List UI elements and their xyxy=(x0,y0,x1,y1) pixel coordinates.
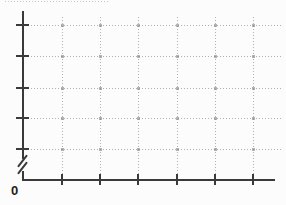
gridline-vertical xyxy=(253,17,254,179)
gridline-vertical xyxy=(138,17,139,179)
gridline-intersection xyxy=(252,24,255,27)
gridline-intersection xyxy=(61,24,64,27)
gridline-intersection xyxy=(61,87,64,90)
gridline-intersection xyxy=(176,55,179,58)
gridline-intersection xyxy=(99,148,102,151)
gridline-intersection xyxy=(137,148,140,151)
gridline-intersection xyxy=(61,55,64,58)
gridline-intersection xyxy=(176,148,179,151)
gridline-intersection xyxy=(252,117,255,120)
gridline-intersection xyxy=(252,148,255,151)
gridline-intersection xyxy=(137,117,140,120)
gridline-intersection xyxy=(252,55,255,58)
x-axis xyxy=(22,179,275,181)
gridline-intersection xyxy=(61,148,64,151)
gridline-intersection xyxy=(214,55,217,58)
gridline-intersection xyxy=(99,55,102,58)
x-axis-tick xyxy=(176,174,178,185)
x-axis-tick xyxy=(99,174,101,185)
gridline-intersection xyxy=(214,24,217,27)
y-axis xyxy=(22,11,24,159)
gridline-intersection xyxy=(61,117,64,120)
x-axis-tick xyxy=(214,174,216,185)
origin-label: 0 xyxy=(11,184,18,197)
gridline-intersection xyxy=(214,148,217,151)
gridline-intersection xyxy=(176,24,179,27)
x-axis-tick xyxy=(61,174,63,185)
blank-grid-figure: 0 xyxy=(0,0,286,205)
gridline-intersection xyxy=(137,55,140,58)
gridline-intersection xyxy=(99,87,102,90)
gridline-intersection xyxy=(214,117,217,120)
gridline-intersection xyxy=(99,24,102,27)
gridline-vertical xyxy=(215,17,216,179)
gridline-vertical xyxy=(100,17,101,179)
gridline-vertical xyxy=(62,17,63,179)
y-axis-tick xyxy=(16,55,29,57)
x-axis-tick xyxy=(137,174,139,185)
y-axis-tick xyxy=(16,117,29,119)
gridline-intersection xyxy=(176,87,179,90)
y-axis-tick xyxy=(16,24,29,26)
x-axis-tick xyxy=(252,174,254,185)
y-axis-tick xyxy=(16,87,29,89)
gridline-intersection xyxy=(137,24,140,27)
gridline-vertical xyxy=(177,17,178,179)
scan-artifact-line xyxy=(5,1,108,2)
y-axis-tick xyxy=(16,148,29,150)
gridline-intersection xyxy=(252,87,255,90)
gridline-intersection xyxy=(99,117,102,120)
gridline-intersection xyxy=(214,87,217,90)
gridline-intersection xyxy=(137,87,140,90)
gridline-intersection xyxy=(176,117,179,120)
